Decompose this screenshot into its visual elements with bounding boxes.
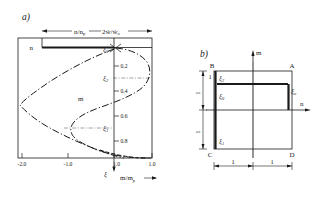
panel-a-tag: a) <box>22 12 30 23</box>
panel-b-bottom-dimensions <box>214 162 292 170</box>
panel-a-frame <box>18 38 152 158</box>
panel-b-tag: b) <box>200 49 208 60</box>
panel-a-curve-envelope <box>100 150 152 158</box>
panel-a-xi-axis-label: ξ <box>104 170 107 178</box>
panel-a-xaxis-label: m/mp <box>120 174 136 183</box>
panel-a-curve-n <box>20 49 124 158</box>
panel-b-dim-top-left: 1 <box>208 73 211 80</box>
panel-a-ytick-3: 0.8 <box>121 138 128 144</box>
panel-b-dim-left-lower: 1 <box>194 130 201 133</box>
panel-a-top-left-label: n/np <box>74 28 86 37</box>
panel-b-n-axis-label: n <box>300 100 304 108</box>
panel-b-label-xi2: ξ2 <box>219 74 225 83</box>
panel-a-xtick-0: -2.0 <box>18 161 27 167</box>
panel-b-label-xi1: ξ1 <box>219 137 224 146</box>
technical-figure: a) n/np 2ẇ/ẇo ξ n <box>0 0 322 206</box>
panel-b-dim-bottom-right: 1 <box>270 158 273 165</box>
panel-a-curve-label-m: m <box>78 95 84 103</box>
panel-a-ytick-2: 0.6 <box>121 113 128 119</box>
panel-a-xtick-1: -1.0 <box>64 161 73 167</box>
panel-a: a) n/np 2ẇ/ẇo ξ n <box>18 12 157 183</box>
panel-a-top-right-label: 2ẇ/ẇo <box>102 28 121 37</box>
panel-a-ytick-1: 0.4 <box>121 88 128 94</box>
panel-a-xtick-2: 1.0 <box>113 161 120 167</box>
panel-b-dim-left-upper: 1 <box>194 91 201 94</box>
panel-b-m-arrowhead <box>251 50 254 56</box>
panel-b-label-xi0-left: ξ0 <box>219 92 225 101</box>
panel-a-top-arrows <box>42 29 152 32</box>
panel-a-curve-m <box>71 48 150 158</box>
panel-b-m-axis-label: m <box>256 49 262 57</box>
panel-b-corner-C: C <box>208 151 213 159</box>
panel-b: b) m n B A C D ξ2 <box>194 49 311 170</box>
panel-b-corner-A: A <box>289 62 294 70</box>
figure-container: a) n/np 2ẇ/ẇo ξ n <box>0 0 322 206</box>
panel-a-xtick-3: 1.0 <box>149 161 156 167</box>
panel-b-left-dimensions <box>199 71 207 149</box>
panel-a-ytick-0: 0.2 <box>121 63 128 69</box>
panel-a-xaxis-arrowhead <box>152 176 157 179</box>
panel-a-curve-label-n: n <box>30 44 34 52</box>
panel-a-label-xi2: ξ2 <box>103 74 109 83</box>
panel-b-corner-D: D <box>289 151 294 159</box>
panel-b-n-arrowhead <box>305 108 311 111</box>
panel-b-corner-B: B <box>210 62 215 70</box>
panel-a-label-xi1: ξ1 <box>103 124 108 133</box>
panel-a-y-ticks <box>114 66 119 141</box>
panel-a-xi-arrowhead <box>112 167 115 173</box>
panel-b-label-xi0-right: ξo <box>291 87 297 96</box>
panel-a-label-xi0: ξ0 <box>103 45 109 54</box>
panel-b-dim-bottom-left: 1 <box>231 158 234 165</box>
